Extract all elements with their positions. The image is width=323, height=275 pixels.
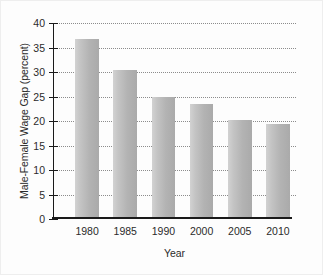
y-tick-mark [49,195,58,196]
x-tick-label: 2010 [266,225,289,237]
y-tick-label: 15 [33,140,45,152]
bar [266,124,290,218]
x-tick-label: 1980 [75,225,98,237]
bar [113,70,137,217]
y-tick-label: 25 [33,91,45,103]
y-tick-mark [49,170,58,171]
y-axis-title: Male-Female Wage Gap (percent) [15,6,33,236]
y-tick-label: 40 [33,17,45,29]
x-axis-title: Year [53,247,296,259]
x-tick-label: 1990 [152,225,175,237]
y-tick-label: 30 [33,66,45,78]
bar [152,97,176,218]
bar [228,120,252,217]
y-tick-label: 35 [33,42,45,54]
bars-group [54,23,296,217]
y-tick-label: 20 [33,115,45,127]
y-tick-mark [49,72,58,73]
bar [190,104,214,218]
y-tick-mark [49,23,58,24]
x-axis-line [52,217,292,219]
x-tick-label: 2005 [228,225,251,237]
y-tick-label: 0 [39,213,45,225]
x-tick-label: 2000 [190,225,213,237]
x-tick-label: 1985 [114,225,137,237]
plot-area: 0510152025303540 [53,23,296,219]
y-tick-label: 10 [33,164,45,176]
y-tick-mark [49,219,58,220]
y-tick-label: 5 [39,189,45,201]
y-tick-mark [49,97,58,98]
plot-frame: 0510152025303540 [53,23,296,219]
bar [75,39,99,218]
y-tick-mark [49,121,58,122]
y-tick-mark [49,48,58,49]
y-tick-mark [49,146,58,147]
bar-chart-figure: Male-Female Wage Gap (percent) 051015202… [0,0,323,275]
